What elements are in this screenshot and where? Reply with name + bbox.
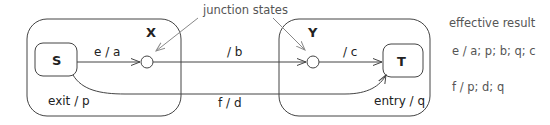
junction-state-2 bbox=[307, 56, 319, 68]
transition-label-f-d: f / d bbox=[218, 97, 242, 109]
effective-result-line-2: f / p; d; q bbox=[452, 82, 504, 94]
state-x-exit-action: exit / p bbox=[48, 95, 90, 107]
state-y-entry-action: entry / q bbox=[374, 95, 425, 107]
junction-states-annotation: junction states bbox=[203, 5, 288, 17]
transition-label-b: / b bbox=[227, 46, 242, 58]
annotation-arrow-2 bbox=[273, 18, 305, 50]
effective-result-title: effective result bbox=[449, 18, 535, 30]
annotation-arrow-1 bbox=[156, 18, 198, 51]
transition-label-c: / c bbox=[343, 46, 357, 58]
effective-result-line-1: e / a; p; b; q; c bbox=[452, 46, 536, 58]
transition-label-e-a: e / a bbox=[94, 46, 120, 58]
state-s-label: S bbox=[52, 54, 61, 67]
junction-state-1 bbox=[141, 56, 153, 68]
state-y-label: Y bbox=[308, 26, 317, 39]
transition-f-d bbox=[73, 75, 386, 94]
state-t-label: T bbox=[397, 55, 406, 68]
state-x-label: X bbox=[146, 26, 156, 39]
